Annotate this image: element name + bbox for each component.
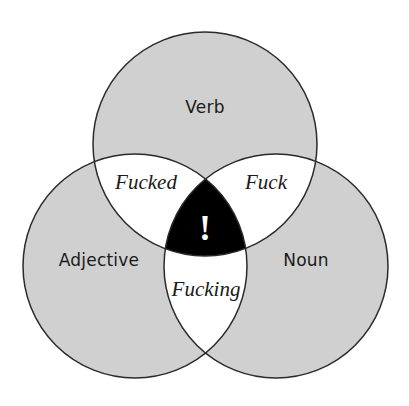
verb-noun-label: Fuck: [244, 170, 288, 194]
exclamation-mark: !: [199, 208, 211, 248]
verb-label: Verb: [185, 97, 224, 117]
adjective-noun-label: Fucking: [171, 277, 241, 301]
verb-adjective-label: Fucked: [114, 170, 177, 194]
venn-diagram: Verb Adjective Noun Fucked Fuck Fucking …: [0, 0, 409, 406]
noun-label: Noun: [283, 250, 328, 270]
adjective-label: Adjective: [59, 250, 139, 270]
